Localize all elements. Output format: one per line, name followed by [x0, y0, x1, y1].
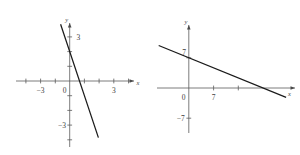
left-y-tick-label-neg3: −3 — [58, 121, 66, 130]
left-x-tick-label-3: 3 — [112, 86, 116, 95]
figure-background — [0, 0, 300, 155]
left-x-tick-label-0: 0 — [63, 86, 67, 95]
left-x-axis-label: x — [136, 79, 140, 86]
left-x-tick-label-neg3: −3 — [37, 86, 45, 95]
left-y-tick-label-3: 3 — [77, 33, 81, 42]
left-y-axis-label: y — [64, 16, 68, 23]
right-x-axis-label: x — [287, 90, 291, 97]
two-line-graphs-figure: −3 0 3 3 −3 x y 0 7 7 −7 x y — [0, 0, 300, 155]
right-x-tick-label-0: 0 — [182, 93, 186, 102]
right-y-tick-label-7: 7 — [182, 48, 186, 57]
right-x-tick-label-7: 7 — [212, 93, 216, 102]
right-y-axis-label: y — [183, 18, 187, 25]
right-y-tick-label-neg7: −7 — [177, 114, 185, 123]
